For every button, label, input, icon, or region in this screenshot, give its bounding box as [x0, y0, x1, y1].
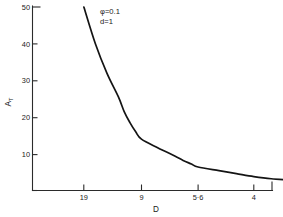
x-tick-label-5-6: 5·6: [193, 193, 204, 202]
y-tick-label-40: 40: [22, 40, 30, 49]
x-tick-label-9: 9: [139, 193, 143, 202]
data-curve-A-T: [84, 7, 283, 180]
x-axis-title: D: [153, 205, 159, 214]
y-axis-title-subscript: T: [8, 97, 14, 101]
x-tick-label-19: 19: [80, 193, 88, 202]
y-tick-label-10: 10: [22, 150, 30, 159]
y-tick-label-30: 30: [22, 76, 30, 85]
y-tick-label-20: 20: [22, 113, 30, 122]
figure-container: 10 20 30 40 50 19 9 5·6 4 D AT φ=0.1 d=1: [0, 0, 283, 217]
x-axis-ticks: [84, 182, 272, 191]
annotation-d: d=1: [100, 17, 113, 26]
x-tick-label-4: 4: [252, 193, 256, 202]
svg-text:AT: AT: [4, 97, 14, 106]
y-axis-title: AT: [4, 97, 14, 106]
y-axis-ticks: [33, 7, 41, 191]
annotation-phi: φ=0.1: [100, 7, 120, 16]
plot-area: 10 20 30 40 50 19 9 5·6 4 D AT φ=0.1 d=1: [0, 0, 283, 217]
y-tick-label-50: 50: [22, 3, 30, 12]
